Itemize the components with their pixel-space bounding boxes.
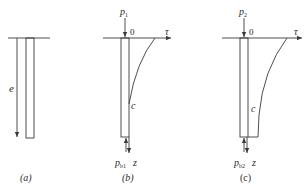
base-reaction-label: pb2 xyxy=(233,157,245,169)
tau-axis-label: τ xyxy=(165,26,169,37)
curve-label: c xyxy=(251,103,256,114)
panel-c: τ 0 p2 c pb2 z (c) xyxy=(222,6,302,184)
depth-axis-label: z xyxy=(132,157,137,168)
depth-axis-label: z xyxy=(251,157,256,168)
shear-stress-curve xyxy=(248,38,287,137)
top-load-label: p2 xyxy=(238,6,247,18)
panel-a: e (a) xyxy=(8,38,50,184)
panel-caption: (a) xyxy=(20,172,32,184)
pile-shaft xyxy=(26,38,34,138)
panel-b: τ 0 p1 c pb1 z (b) xyxy=(103,6,171,184)
shear-stress-curve xyxy=(129,38,155,104)
origin-label: 0 xyxy=(130,27,135,37)
tau-axis-label: τ xyxy=(294,26,298,37)
base-reaction-label: pb1 xyxy=(114,157,126,169)
depth-label: e xyxy=(9,82,14,94)
pile-shaft xyxy=(121,38,129,137)
curve-label: c xyxy=(131,100,136,111)
origin-label: 0 xyxy=(249,27,254,37)
pile-shaft xyxy=(240,38,248,137)
top-load-label: p1 xyxy=(119,6,128,18)
panel-caption: (b) xyxy=(122,172,134,184)
pile-load-diagram: e (a) τ 0 p1 c pb1 z (b) τ 0 p2 c pb2 z … xyxy=(0,0,306,194)
panel-caption: (c) xyxy=(240,172,251,184)
